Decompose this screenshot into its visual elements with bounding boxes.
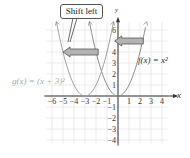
svg-text:3: 3: [112, 59, 116, 68]
y-axis-label: y: [115, 7, 118, 14]
svg-text:−1: −1: [107, 103, 116, 112]
g-label: g(x) = (x + 3)²: [12, 77, 65, 86]
svg-text:−4: −4: [107, 136, 116, 145]
x-axis-label: x: [177, 91, 181, 100]
svg-text:−4: −4: [70, 97, 79, 106]
svg-text:−6: −6: [48, 97, 57, 106]
svg-text:4: 4: [112, 48, 116, 57]
svg-text:2: 2: [112, 70, 116, 79]
svg-text:−2: −2: [92, 97, 101, 106]
svg-text:2: 2: [138, 97, 142, 106]
svg-text:1: 1: [112, 81, 116, 90]
svg-text:−2: −2: [107, 114, 116, 123]
svg-text:1: 1: [127, 97, 131, 106]
f-label: f(x) = x²: [138, 56, 168, 65]
svg-text:−3: −3: [107, 125, 116, 134]
svg-text:−3: −3: [81, 97, 90, 106]
shift-left-callout: Shift left: [60, 4, 103, 19]
tick-labels: −6−5−4−3−2−1123464321−1−2−3−4: [48, 26, 164, 145]
svg-text:4: 4: [160, 97, 164, 106]
svg-text:3: 3: [149, 97, 153, 106]
svg-text:−5: −5: [59, 97, 68, 106]
